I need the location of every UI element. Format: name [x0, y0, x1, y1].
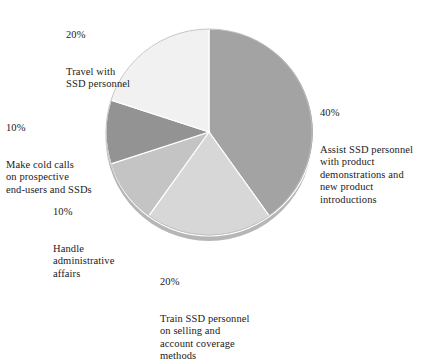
pie-label-travel-text: Travel with SSD personnel — [66, 66, 130, 91]
pie-label-train-percent: 20% — [160, 276, 250, 288]
pie-label-admin-text: Handle administrative affairs — [53, 243, 114, 280]
pie-label-train: 20% Train SSD personnel on selling and a… — [160, 251, 250, 363]
pie-label-train-text: Train SSD personnel on selling and accou… — [160, 313, 250, 363]
pie-label-assist-percent: 40% — [320, 107, 413, 119]
pie-label-admin-percent: 10% — [53, 206, 114, 218]
pie-label-admin: 10% Handle administrative affairs — [53, 181, 114, 305]
pie-label-assist: 40% Assist SSD personnel with product de… — [320, 82, 413, 231]
pie-label-travel-percent: 20% — [66, 29, 130, 41]
pie-label-assist-text: Assist SSD personnel with product demons… — [320, 144, 413, 206]
pie-label-coldcalls-percent: 10% — [6, 122, 92, 134]
